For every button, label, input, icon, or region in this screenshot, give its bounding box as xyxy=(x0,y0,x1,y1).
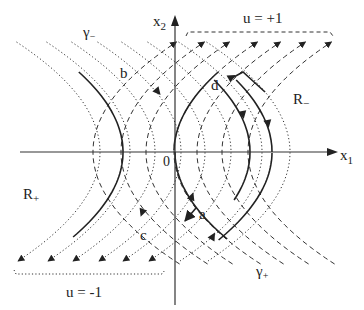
point-d-label: d xyxy=(211,77,219,93)
point-a-label: a xyxy=(199,206,206,222)
x2-axis-arrowhead xyxy=(171,15,179,26)
x1-axis-label: x1 xyxy=(340,147,353,166)
u-plus-trajectory xyxy=(248,42,335,264)
phase-portrait-diagram: x2 x1 0 u = +1 u = -1 R− R+ γ− γ+ a b c … xyxy=(0,0,364,310)
u-plus-trajectory xyxy=(197,42,284,264)
trajectory-b-to-c xyxy=(73,72,123,237)
u-plus-trajectory xyxy=(146,42,233,264)
trajectory-d xyxy=(214,80,250,152)
gamma-minus-label: γ− xyxy=(82,24,96,42)
gamma-plus-label: γ+ xyxy=(255,263,269,281)
u-minus-label: u = -1 xyxy=(66,284,102,300)
arrowhead-c xyxy=(137,208,147,218)
region-r-plus-label: R+ xyxy=(23,186,39,204)
origin-label: 0 xyxy=(163,154,170,169)
point-b-label: b xyxy=(120,65,128,81)
x1-axis-arrowhead xyxy=(327,148,338,156)
u-plus-label: u = +1 xyxy=(243,10,282,26)
u-plus-bracket xyxy=(186,32,333,36)
u-minus-bracket xyxy=(14,270,165,274)
gamma-plus-arc xyxy=(175,152,227,239)
arrowhead-b xyxy=(152,86,163,97)
trajectory-a-arrow xyxy=(185,208,196,221)
u-plus-trajectory xyxy=(93,42,180,264)
point-c-label: c xyxy=(140,227,147,243)
x2-axis-label: x2 xyxy=(153,13,166,32)
region-r-minus-label: R− xyxy=(293,91,309,109)
